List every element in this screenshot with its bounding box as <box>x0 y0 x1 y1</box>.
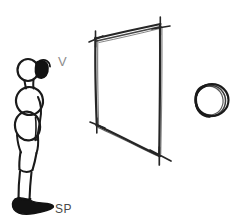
arm-inner <box>35 118 36 141</box>
plane-edge-bottom <box>97 125 161 156</box>
shin-front <box>19 172 21 200</box>
sketched-circle <box>193 83 229 120</box>
standpoint-label: SP <box>55 203 72 215</box>
thigh-front <box>19 152 20 170</box>
sketch-drawing <box>0 0 240 224</box>
foot-icon <box>12 198 53 214</box>
viewpoint-label: V <box>58 55 67 68</box>
thigh-back <box>33 153 37 170</box>
shin-back <box>30 172 32 200</box>
hair-bun-icon <box>35 61 48 78</box>
sketch-canvas: V SP <box>0 0 240 224</box>
corner-mark-bottom-left <box>90 118 105 133</box>
plane-edge-right <box>159 25 160 157</box>
perspective-plane <box>89 17 171 165</box>
plane-edge-left-2 <box>98 40 99 125</box>
knee <box>20 170 33 172</box>
circle-stroke-4 <box>196 86 210 117</box>
plane-edge-bottom-2 <box>98 128 159 157</box>
corner-mark-top-left <box>89 31 103 47</box>
plane-edge-left <box>95 38 96 127</box>
standing-person-figure <box>12 59 53 214</box>
